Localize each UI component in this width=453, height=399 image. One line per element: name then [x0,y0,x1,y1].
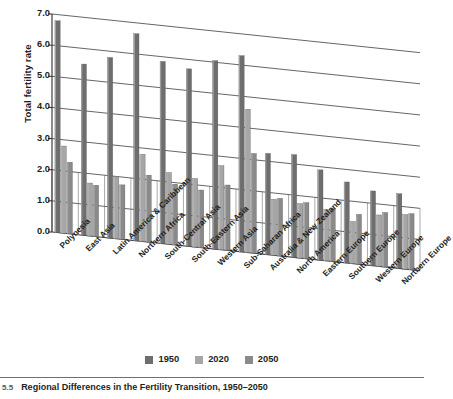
legend-swatch-icon [195,356,203,364]
x-axis-labels: PolynesiaEast AsiaLatin America & Caribb… [0,0,424,370]
chart-legend: 195020202050 [0,355,424,364]
caption-divider [0,377,424,378]
legend-item: 2050 [245,355,279,364]
legend-item: 1950 [145,355,179,364]
legend-label: 1950 [158,355,179,364]
x-tick-label: Southern Europe [347,227,402,282]
caption-number: 5.5 [2,383,13,393]
caption-text: Regional Differences in the Fertility Tr… [21,382,268,393]
legend-swatch-icon [145,356,153,364]
x-tick-label: Northern Europe [399,233,453,287]
legend-item: 2020 [195,355,229,364]
figure-caption: 5.5 Regional Differences in the Fertilit… [0,382,426,393]
legend-label: 2050 [258,355,279,364]
legend-swatch-icon [245,356,253,364]
legend-label: 2020 [208,355,229,364]
